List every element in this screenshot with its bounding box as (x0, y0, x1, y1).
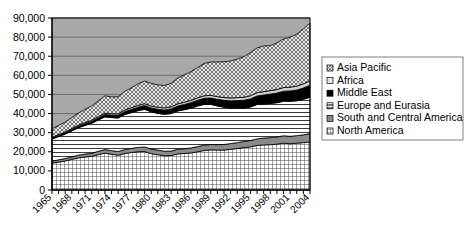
chart-root: 90,00080,00070,00060,00050,00040,00030,0… (0, 0, 466, 231)
y-tick-label: 80,000 (13, 31, 45, 43)
x-tick-label: 1998 (248, 191, 272, 215)
x-axis-tick-labels: 1965196819711974197719801983198619891992… (30, 191, 312, 215)
legend-label[interactable]: North America (337, 124, 404, 136)
y-tick-label: 60,000 (13, 69, 45, 81)
x-tick-label: 1992 (209, 191, 233, 215)
legend-label[interactable]: Middle East (337, 86, 392, 98)
x-tick-label: 1989 (189, 191, 213, 215)
x-tick-label: 1983 (149, 191, 173, 215)
y-tick-label: 20,000 (13, 145, 45, 157)
legend-swatch (327, 128, 333, 134)
legend-swatch (327, 103, 333, 109)
legend-label[interactable]: Europe and Eurasia (337, 99, 430, 111)
legend-swatch (327, 78, 333, 84)
stacked-area-chart: 90,00080,00070,00060,00050,00040,00030,0… (0, 0, 466, 231)
y-tick-label: 40,000 (13, 107, 45, 119)
y-tick-label: 30,000 (13, 126, 45, 138)
x-axis-ticks (52, 190, 310, 194)
legend-label[interactable]: Asia Pacific (337, 61, 391, 73)
x-tick-label: 1977 (109, 191, 133, 215)
x-tick-label: 2004 (288, 191, 312, 215)
x-tick-label: 1986 (169, 191, 193, 215)
y-tick-label: 90,000 (13, 12, 45, 24)
x-tick-label: 1995 (228, 191, 252, 215)
legend-swatch (327, 90, 333, 96)
x-tick-label: 1968 (50, 191, 74, 215)
x-tick-label: 1965 (30, 191, 54, 215)
y-tick-label: 70,000 (13, 50, 45, 62)
legend-swatch (327, 65, 333, 71)
legend-swatch (327, 115, 333, 121)
y-tick-label: 50,000 (13, 88, 45, 100)
x-tick-label: 1980 (129, 191, 153, 215)
x-tick-label: 1974 (89, 191, 113, 215)
x-tick-label: 1971 (70, 191, 94, 215)
legend-label[interactable]: South and Central America (337, 111, 463, 123)
legend-label[interactable]: Africa (337, 74, 364, 86)
legend: Asia PacificAfricaMiddle EastEurope and … (322, 57, 463, 140)
x-tick-label: 2001 (268, 191, 292, 215)
plot-area (52, 18, 310, 190)
y-tick-label: 10,000 (13, 164, 45, 176)
y-axis-tick-labels: 90,00080,00070,00060,00050,00040,00030,0… (13, 12, 45, 196)
